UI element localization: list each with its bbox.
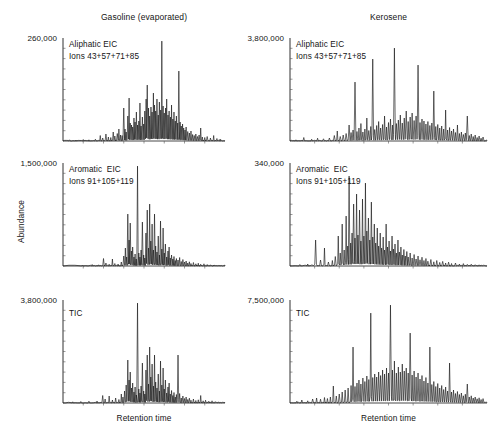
chromatogram-figure: Gasoline (evaporated) Kerosene Abundance… bbox=[0, 0, 497, 434]
chromatogram-trace bbox=[290, 305, 487, 403]
panel-annotation-kerosene-tic: TIC bbox=[296, 308, 310, 320]
panel-kerosene-tic bbox=[0, 0, 497, 434]
y-max-label-kerosene-tic: 7,500,000 bbox=[228, 296, 284, 305]
x-axis-label-right: Retention time bbox=[290, 413, 487, 423]
x-axis-label-left: Retention time bbox=[63, 413, 225, 423]
